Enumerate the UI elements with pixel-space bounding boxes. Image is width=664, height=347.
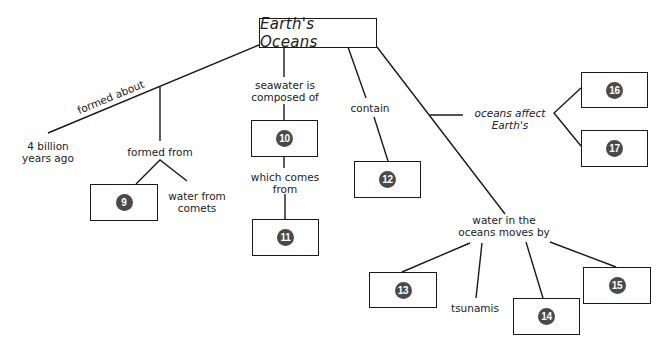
number-badge-12: 12: [379, 171, 396, 188]
blank-box-15[interactable]: 15: [583, 267, 651, 304]
label-seawater-composed-of: seawater is composed of: [246, 79, 324, 103]
label-formed-from: formed from: [118, 146, 202, 158]
number-badge-16: 16: [606, 82, 623, 99]
number-badge-15: 15: [609, 277, 626, 294]
root-label: Earth's Oceans: [260, 15, 376, 51]
blank-box-13[interactable]: 13: [369, 272, 437, 308]
blank-box-17[interactable]: 17: [581, 130, 648, 167]
blank-box-12[interactable]: 12: [354, 161, 421, 198]
line-contain-12: [374, 117, 388, 161]
line-moves-13: [402, 243, 470, 272]
number-badge-10: 10: [276, 130, 293, 147]
blank-box-14[interactable]: 14: [513, 298, 580, 335]
label-water-moves-by: water in the oceans moves by: [452, 214, 556, 238]
blank-box-16[interactable]: 16: [581, 72, 648, 108]
line-moves-14: [526, 242, 543, 298]
label-contain: contain: [345, 102, 395, 114]
label-oceans-affect-earths: oceans affect Earth's: [468, 107, 552, 131]
number-badge-14: 14: [538, 308, 555, 325]
blank-box-9[interactable]: 9: [90, 184, 158, 221]
line-formed-about: [48, 45, 259, 133]
root-node-earths-oceans: Earth's Oceans: [259, 18, 377, 48]
connector-lines: [0, 0, 664, 347]
label-four-billion-years-ago: 4 billion years ago: [18, 140, 78, 164]
number-badge-11: 11: [277, 229, 294, 246]
number-badge-9: 9: [116, 194, 133, 211]
fork-formed-from: [136, 160, 187, 184]
fork-oceans-affect: [554, 88, 581, 146]
blank-box-10[interactable]: 10: [251, 120, 318, 157]
label-tsunamis: tsunamis: [447, 302, 503, 314]
number-badge-13: 13: [395, 282, 412, 299]
blank-box-11[interactable]: 11: [252, 219, 319, 256]
line-root-contain: [348, 47, 366, 98]
line-moves-15: [550, 242, 616, 267]
label-which-comes-from: which comes from: [246, 171, 324, 195]
line-moves-tsunamis: [476, 243, 482, 298]
label-water-from-comets: water from comets: [161, 190, 233, 214]
number-badge-17: 17: [606, 140, 623, 157]
